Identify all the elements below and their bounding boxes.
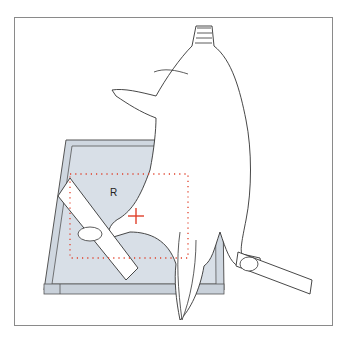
positioning-illustration [0,0,346,340]
paw-left [78,227,102,241]
side-marker-label: R [110,187,117,198]
positioning-strap-right [236,252,312,294]
paw-right [240,257,258,271]
